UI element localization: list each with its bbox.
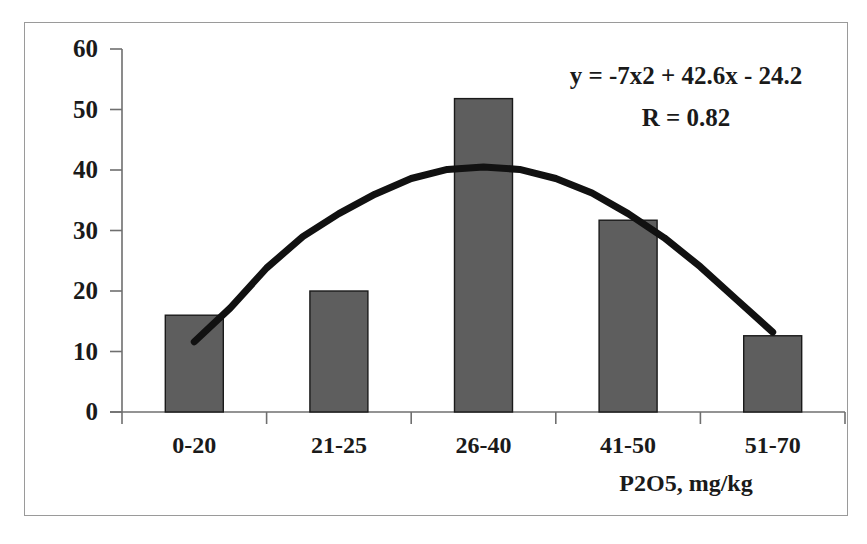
trendline-equation-label: y = -7x2 + 42.6x - 24.2 [570,62,803,90]
y-axis-tick-label: 10 [40,338,98,366]
x-axis-tick-label: 51-70 [745,432,801,459]
y-axis-tick-label: 20 [40,277,98,305]
bar [310,291,368,412]
figure-container: 0102030405060 0-2021-2526-4041-5051-70 P… [0,0,867,544]
y-axis-ticks [110,49,122,412]
y-axis-tick-label: 40 [40,156,98,184]
y-axis-tick-label: 60 [40,35,98,63]
x-axis-tick-label: 41-50 [600,432,656,459]
correlation-coefficient-label: R = 0.82 [642,104,731,132]
x-axis-ticks [122,412,845,424]
bar [744,336,802,412]
bar [455,99,513,412]
bar-series [165,99,801,412]
x-axis-tick-label: 21-25 [311,432,367,459]
y-axis-tick-label: 0 [40,398,98,426]
x-axis-tick-label: 26-40 [456,432,512,459]
bar [165,315,223,412]
y-axis-tick-label: 50 [40,96,98,124]
x-axis-tick-label: 0-20 [172,432,216,459]
bar [599,220,657,412]
x-axis-title: P2O5, mg/kg [619,470,752,497]
y-axis-tick-label: 30 [40,217,98,245]
